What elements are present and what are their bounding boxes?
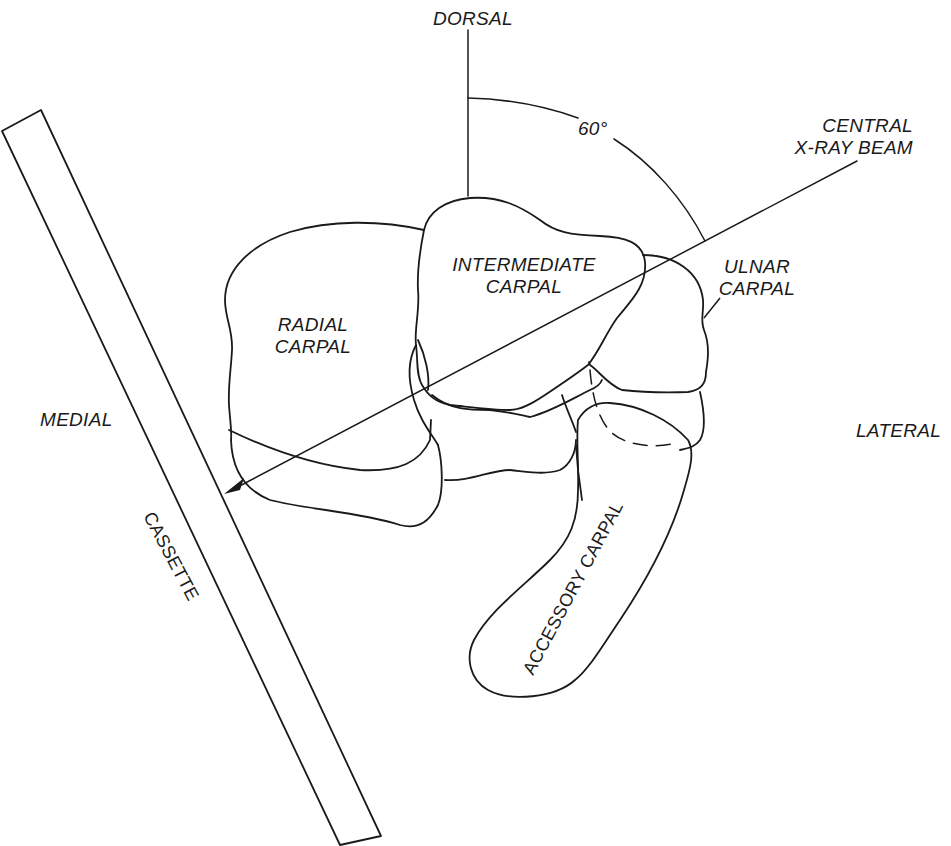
lateral-label: LATERAL (856, 420, 941, 442)
carpal-radiography-diagram: DORSAL 60° CENTRAL X-RAY BEAM INTERMEDIA… (0, 0, 951, 846)
radial-carpal-label-line1: RADIAL (268, 314, 358, 336)
ulnar-leader-line (704, 298, 720, 318)
radial-carpal-label-line2: CARPAL (268, 336, 358, 358)
radial-carpal-label: RADIAL CARPAL (268, 314, 358, 358)
ulnar-leader-svg (0, 0, 951, 846)
medial-label: MEDIAL (40, 409, 113, 431)
